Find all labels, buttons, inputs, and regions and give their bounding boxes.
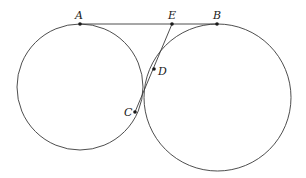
points-group [78, 22, 219, 114]
segments-group [80, 24, 217, 112]
point-b [215, 22, 219, 26]
point-a [78, 22, 82, 26]
label-e: E [167, 9, 176, 22]
point-d [152, 67, 156, 71]
point-c [133, 110, 137, 114]
labels-group: AEBDC [74, 9, 221, 119]
circles-group [17, 24, 291, 171]
geometry-diagram: AEBDC [0, 0, 306, 178]
label-d: D [157, 65, 167, 78]
right-circle [144, 24, 291, 171]
label-c: C [124, 106, 133, 119]
label-a: A [74, 9, 83, 22]
label-b: B [212, 9, 221, 22]
point-e [170, 22, 174, 26]
left-circle [17, 24, 143, 150]
